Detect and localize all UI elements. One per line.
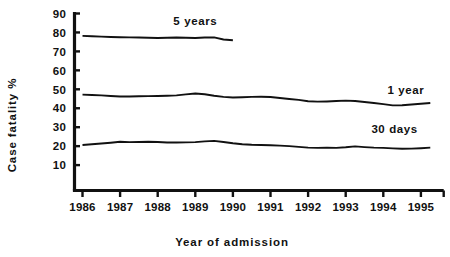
y-tick-label: 10 — [53, 159, 66, 171]
series-label-5-years: 5 years — [173, 15, 217, 27]
x-tick-label: 1988 — [145, 201, 172, 213]
series-line-5-years — [83, 36, 233, 40]
x-tick-label: 1995 — [408, 201, 435, 213]
x-tick-label: 1987 — [107, 201, 133, 213]
x-tick-label: 1990 — [220, 201, 246, 213]
y-tick-label: 80 — [53, 27, 66, 39]
y-axis-tick-labels: 102030405060708090 — [53, 8, 66, 172]
y-tick-label: 70 — [53, 46, 66, 58]
x-tick-label: 1991 — [257, 201, 284, 213]
line-chart-svg: 102030405060708090 198619871988198919901… — [0, 0, 450, 257]
y-tick-label: 20 — [53, 140, 66, 152]
y-tick-label: 50 — [53, 84, 66, 96]
x-axis-tick-labels: 1986198719881989199019911992199319941995 — [69, 201, 434, 213]
x-axis-title: Year of admission — [175, 236, 289, 248]
chart-axes — [73, 12, 444, 191]
x-tick-label: 1986 — [69, 201, 95, 213]
series-annotations: 5 years1 year30 days — [173, 15, 424, 135]
chart-figure: 102030405060708090 198619871988198919901… — [0, 0, 450, 257]
series-line-1-year — [83, 93, 431, 105]
series-label-30-days: 30 days — [371, 123, 417, 135]
y-tick-label: 30 — [53, 121, 66, 133]
x-tick-label: 1993 — [333, 201, 359, 213]
series-line-30-days — [83, 141, 431, 149]
x-tick-label: 1992 — [295, 201, 321, 213]
y-tick-label: 40 — [53, 102, 66, 114]
x-tick-label: 1994 — [370, 201, 397, 213]
y-axis-title: Case fatality % — [6, 78, 18, 173]
y-tick-label: 90 — [53, 8, 66, 20]
y-tick-label: 60 — [53, 65, 66, 77]
series-label-1-year: 1 year — [387, 84, 424, 96]
x-tick-label: 1989 — [182, 201, 208, 213]
